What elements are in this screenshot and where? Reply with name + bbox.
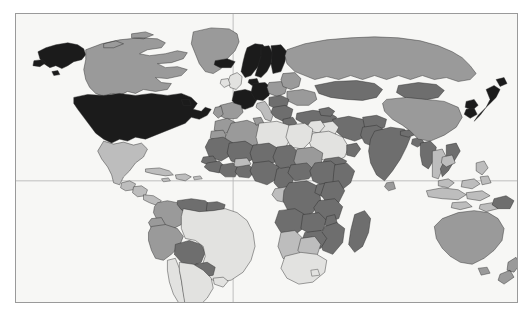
figure-root [0, 0, 532, 317]
world-map-svg [16, 14, 517, 302]
world-map-frame [15, 13, 518, 303]
